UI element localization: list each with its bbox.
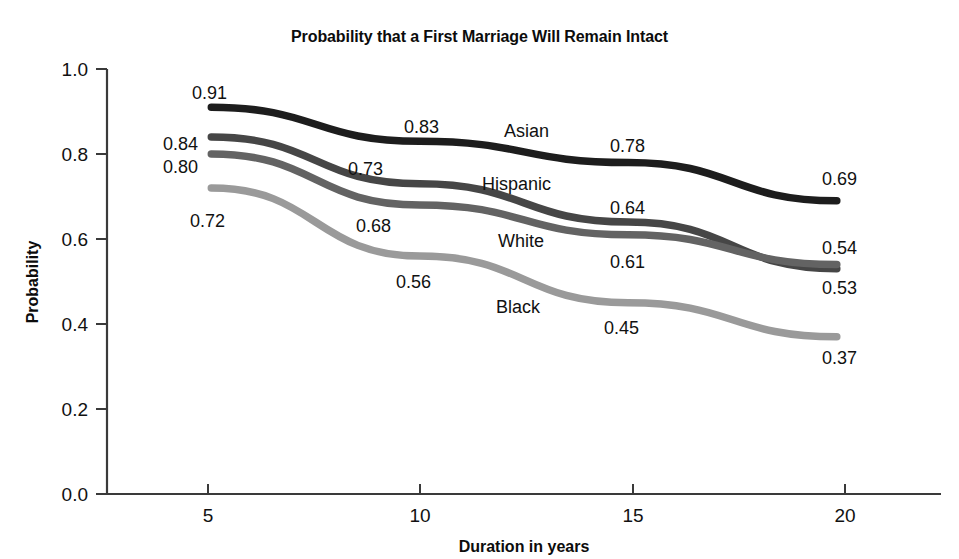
data-label-white-year15: 0.61 [610, 252, 645, 272]
data-label-black-year20: 0.37 [822, 348, 857, 368]
y-axis-tick-label-0-2: 0.2 [62, 399, 88, 420]
y-axis-tick-label-0-6: 0.6 [62, 229, 88, 250]
data-label-black-year10: 0.56 [396, 272, 431, 292]
data-label-hispanic-year20: 0.53 [822, 278, 857, 298]
y-axis-tick-label-1-0: 1.0 [62, 59, 88, 80]
data-label-hispanic-year5: 0.84 [163, 134, 198, 154]
x-axis-title: Duration in years [459, 538, 590, 555]
chart-page: Probability that a First Marriage Will R… [0, 0, 959, 559]
data-label-black-year5: 0.72 [190, 211, 225, 231]
series-label-black: Black [496, 297, 541, 317]
x-axis-tick-label-5: 5 [203, 505, 214, 526]
series-label-asian: Asian [504, 121, 549, 141]
y-axis-tick-label-0-4: 0.4 [62, 314, 89, 335]
series-label-hispanic: Hispanic [482, 174, 551, 194]
data-label-white-year20: 0.54 [822, 238, 857, 258]
data-label-asian-year15: 0.78 [610, 136, 645, 156]
line-chart-plot: 1.0 0.8 0.6 0.4 0.2 0.0 5 10 15 20 Proba… [0, 0, 959, 559]
data-label-asian-year10: 0.83 [404, 117, 439, 137]
y-axis-tick-label-0-0: 0.0 [62, 484, 88, 505]
data-label-white-year5: 0.80 [163, 157, 198, 177]
data-label-white-year10: 0.68 [356, 216, 391, 236]
series-label-white: White [498, 231, 544, 251]
x-axis-tick-label-15: 15 [622, 505, 643, 526]
data-label-hispanic-year15: 0.64 [610, 198, 645, 218]
data-label-asian-year5: 0.91 [192, 83, 227, 103]
x-axis-tick-label-10: 10 [409, 505, 430, 526]
y-axis-title: Probability [24, 241, 41, 324]
y-axis-tick-label-0-8: 0.8 [62, 144, 88, 165]
data-label-hispanic-year10: 0.73 [348, 159, 383, 179]
x-axis-tick-label-20: 20 [834, 505, 855, 526]
data-label-black-year15: 0.45 [604, 318, 639, 338]
data-label-asian-year20: 0.69 [822, 169, 857, 189]
